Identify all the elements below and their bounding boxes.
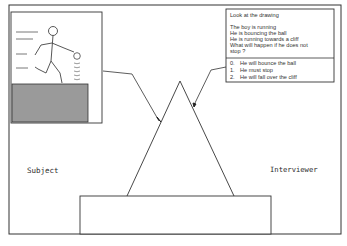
answer-code-1: 1. xyxy=(230,67,235,73)
interviewer-label: Interviewer xyxy=(270,165,318,174)
answer-text-0: He will bounce the ball xyxy=(240,60,296,66)
right-arrowhead-icon xyxy=(193,103,196,107)
answer-text-1: He must stop xyxy=(240,67,273,73)
triangle-shape xyxy=(127,81,234,196)
instruction-text: Look at the drawing xyxy=(230,12,279,18)
answer-code-0: 0. xyxy=(230,60,235,66)
left-connector-arrow xyxy=(103,71,159,121)
right-connector-arrow xyxy=(194,67,226,105)
prompt-card: Look at the drawing The boy is running H… xyxy=(226,9,334,82)
drawing-panel xyxy=(11,12,102,123)
story-line-1: The boy is running xyxy=(230,24,276,30)
diagram-canvas: Look at the drawing The boy is running H… xyxy=(0,0,347,246)
cliff-shape xyxy=(12,84,88,122)
left-arrowhead-icon xyxy=(157,117,161,122)
answer-text-2: He will fall over the cliff xyxy=(240,74,297,80)
ball-icon xyxy=(74,53,81,60)
story-line-5: stop ? xyxy=(230,48,245,54)
answer-code-2: 2. xyxy=(230,74,235,80)
table-rectangle xyxy=(80,196,271,234)
subject-label: Subject xyxy=(27,166,59,175)
